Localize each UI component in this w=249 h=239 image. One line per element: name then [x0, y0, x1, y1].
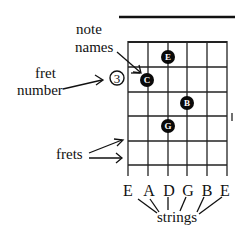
string-name-1: E: [123, 182, 133, 199]
string-pointer-5: [197, 197, 204, 212]
string-name-5: B: [202, 182, 213, 199]
note-label-g: G: [164, 121, 171, 131]
note-label-e: E: [165, 52, 171, 62]
fret-lines: [128, 42, 227, 165]
chord-diagram: E C B G 3 E A D G B E: [0, 0, 249, 239]
strings-label: strings: [157, 209, 197, 225]
note-names-label-2: names: [75, 39, 113, 55]
note-names-label-1: note: [76, 21, 102, 37]
strings-lines: [128, 41, 227, 176]
string-name-2: A: [143, 182, 155, 199]
string-name-3: D: [163, 182, 175, 199]
note-label-c: C: [144, 75, 151, 85]
note-label-b: B: [184, 98, 190, 108]
fret-number-label-2: number: [17, 82, 63, 98]
fret-number-label-1: fret: [35, 65, 56, 81]
fret-number: 3: [114, 71, 121, 86]
frets-label: frets: [56, 146, 83, 162]
string-name-6: E: [220, 182, 230, 199]
frets-arrow-upper: [89, 140, 122, 153]
string-name-4: G: [182, 182, 194, 199]
